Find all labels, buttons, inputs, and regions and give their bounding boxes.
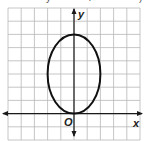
y-axis-down-arrow-icon [72,131,77,137]
y-axis-label: y [78,9,84,20]
y-axis-up-arrow-icon [72,8,77,14]
coordinate-plane: y 4 ) y x O [0,0,145,141]
x-axis-label: x [133,118,139,129]
clipped-text-fragment: ) [139,0,142,3]
clipped-text-fragment: 4 [86,0,92,3]
clipped-text-fragment: y [46,0,51,3]
origin-label: O [64,117,73,128]
x-axis-left-arrow-icon [2,111,8,116]
